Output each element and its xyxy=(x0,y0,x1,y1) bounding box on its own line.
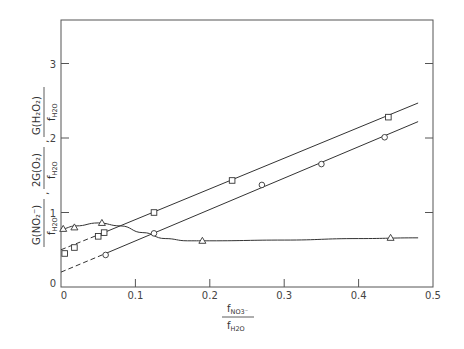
square-marker xyxy=(229,178,235,184)
svg-text:fNO3⁻: fNO3⁻ xyxy=(227,303,248,316)
square-marker xyxy=(151,210,157,216)
svg-text:fH2O: fH2O xyxy=(46,161,59,179)
svg-text:G(NO₂⁻): G(NO₂⁻) xyxy=(31,205,42,245)
circle-marker xyxy=(319,161,325,167)
y-tick-label: 2 xyxy=(50,133,56,144)
circle-marker xyxy=(103,252,109,258)
square-marker xyxy=(62,251,68,257)
svg-text:fH2O: fH2O xyxy=(46,217,59,235)
series-markers xyxy=(60,114,394,257)
y-tick-label: 1 xyxy=(50,208,56,219)
square-marker xyxy=(95,234,101,240)
square-marker xyxy=(101,230,107,236)
triangle-marker xyxy=(387,234,394,240)
y-tick-label: 3 xyxy=(50,59,56,70)
x-axis-label: fNO3⁻ fH2O xyxy=(222,303,254,333)
triangle-marker xyxy=(98,219,105,225)
y-axis-label: G(NO₂⁻) fH2O , 2G(O₂) fH2O , G(H₂O₂) fH2… xyxy=(31,87,59,247)
svg-text:fH2O: fH2O xyxy=(227,320,245,333)
circle-marker xyxy=(382,134,388,140)
x-tick-label: 0.3 xyxy=(276,290,292,301)
y-tick-label: 0 xyxy=(50,278,56,289)
series-lines xyxy=(61,103,418,272)
svg-text:2G(O₂): 2G(O₂) xyxy=(31,153,42,187)
axis-ticks xyxy=(61,64,433,288)
svg-text:,: , xyxy=(39,192,50,195)
svg-text:G(H₂O₂): G(H₂O₂) xyxy=(31,96,42,135)
tick-labels: 00.10.20.30.40.50123 xyxy=(50,59,441,302)
x-tick-label: 0.2 xyxy=(202,290,218,301)
x-tick-label: 0.4 xyxy=(351,290,367,301)
plot-frame xyxy=(61,20,433,287)
svg-text:fH2O: fH2O xyxy=(46,103,59,121)
chart: 00.10.20.30.40.50123 fNO3⁻ fH2O G(NO₂⁻) … xyxy=(0,0,464,349)
x-tick-label: 0.1 xyxy=(127,290,143,301)
x-tick-label: 0 xyxy=(61,290,67,301)
x-tick-label: 0.5 xyxy=(425,290,441,301)
circle-marker xyxy=(259,182,265,188)
svg-text:,: , xyxy=(39,140,50,143)
circle-marker xyxy=(151,231,157,237)
square-marker xyxy=(72,245,78,251)
triangles-curve xyxy=(61,223,418,241)
triangle-marker xyxy=(71,224,78,230)
square-marker xyxy=(386,114,392,120)
